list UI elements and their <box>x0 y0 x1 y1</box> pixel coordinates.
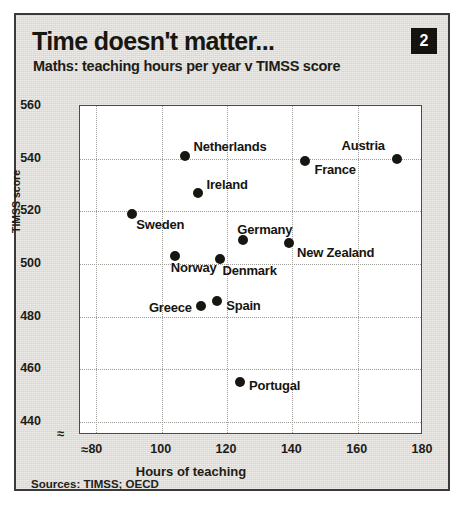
x-tick-140: 140 <box>281 442 302 456</box>
data-label-france: France <box>314 162 355 177</box>
y-tick-480: 480 <box>1 309 41 323</box>
y-tick-500: 500 <box>1 256 41 270</box>
x-tick-120: 120 <box>216 442 237 456</box>
data-point-new-zealand <box>284 238 294 248</box>
data-label-austria: Austria <box>341 137 384 152</box>
y-tick-560: 560 <box>1 98 41 112</box>
data-label-portugal: Portugal <box>249 378 300 393</box>
x-tick-180: 180 <box>412 442 433 456</box>
data-point-greece <box>196 301 206 311</box>
data-label-ireland: Ireland <box>207 176 248 191</box>
y-tick-520: 520 <box>1 203 41 217</box>
data-label-germany: Germany <box>237 222 292 237</box>
data-label-netherlands: Netherlands <box>194 139 267 154</box>
x-axis-label: Hours of teaching <box>136 464 247 479</box>
gridline-horizontal <box>80 317 421 318</box>
chart-card: Time doesn't matter... 2 Maths: teaching… <box>14 13 450 491</box>
gridline-horizontal <box>80 422 421 423</box>
data-point-france <box>300 156 310 166</box>
y-tick-440: 440 <box>1 414 41 428</box>
data-point-austria <box>392 154 402 164</box>
y-tick-540: 540 <box>1 151 41 165</box>
x-axis-break-icon: ≈ <box>81 442 88 457</box>
gridline-vertical <box>96 106 97 433</box>
gridline-horizontal <box>80 369 421 370</box>
y-axis-break-icon: ≈ <box>57 426 64 441</box>
data-label-new-zealand: New Zealand <box>297 244 374 259</box>
data-point-germany <box>238 235 248 245</box>
gridline-horizontal <box>80 159 421 160</box>
data-label-norway: Norway <box>171 260 217 275</box>
data-label-greece: Greece <box>149 300 192 315</box>
plot-container: NetherlandsAustriaFranceIrelandSwedenGer… <box>16 15 452 493</box>
gridline-vertical <box>358 106 359 433</box>
data-point-ireland <box>193 188 203 198</box>
plot-area: NetherlandsAustriaFranceIrelandSwedenGer… <box>79 105 422 434</box>
x-tick-100: 100 <box>150 442 171 456</box>
data-label-spain: Spain <box>226 297 260 312</box>
sources-note: Sources: TIMSS; OECD <box>31 478 159 490</box>
x-tick-160: 160 <box>346 442 367 456</box>
x-tick-80: 80 <box>88 442 102 456</box>
data-label-sweden: Sweden <box>136 216 184 231</box>
data-point-netherlands <box>180 151 190 161</box>
figure-page: Time doesn't matter... 2 Maths: teaching… <box>0 0 464 505</box>
data-point-spain <box>212 296 222 306</box>
gridline-vertical <box>162 106 163 433</box>
y-tick-460: 460 <box>1 361 41 375</box>
y-axis-label: TIMSS score <box>10 170 22 233</box>
data-label-denmark: Denmark <box>222 262 276 277</box>
data-point-portugal <box>235 377 245 387</box>
